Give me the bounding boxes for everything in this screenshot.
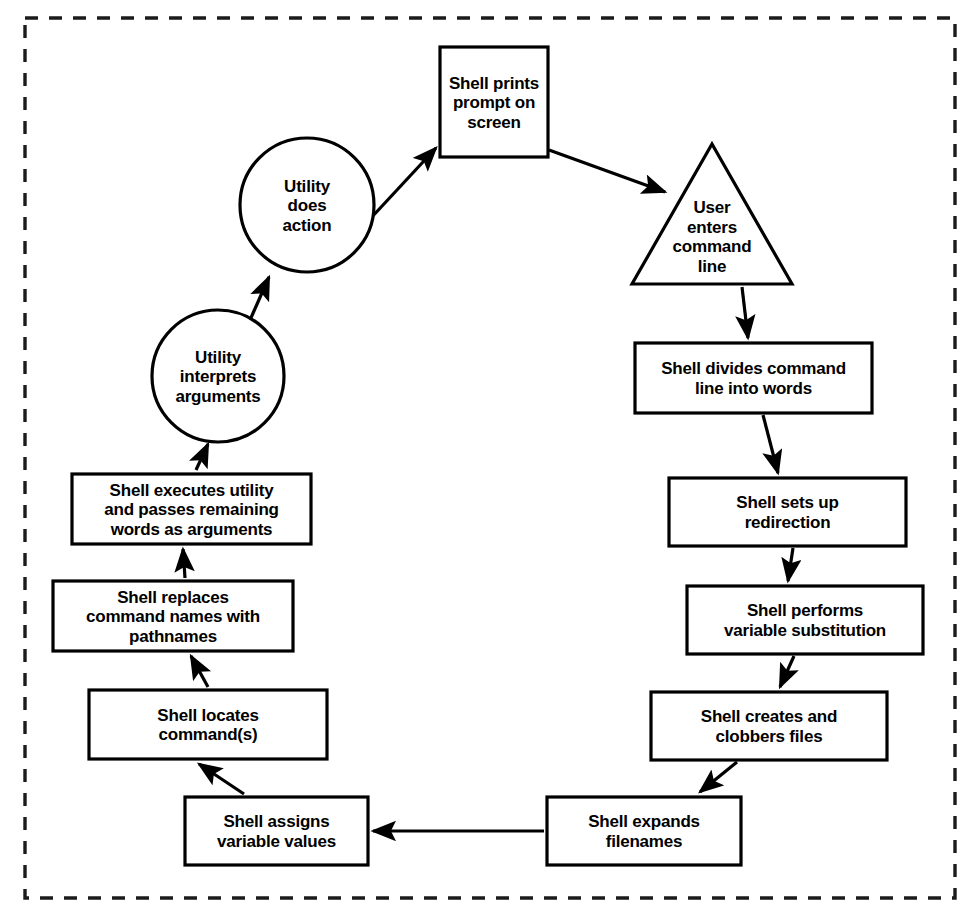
node-shell-locates-commands: Shell locatescommand(s) [89, 690, 327, 759]
edge-interprets-to-action [250, 277, 269, 320]
edge-prompt-to-user [549, 150, 665, 192]
edge-redirection-to-substitution [788, 548, 793, 581]
shell-performs-variable-substitution-label: Shell performsvariable substitution [724, 601, 886, 640]
edge-clobbers-to-expands [700, 762, 737, 792]
node-shell-replaces-command-names: Shell replacescommand names withpathname… [53, 581, 293, 651]
node-shell-sets-up-redirection: Shell sets upredirection [669, 478, 906, 546]
utility-does-action-label: Utilitydoesaction [283, 177, 332, 235]
edge-locates-to-replaces [191, 656, 208, 687]
node-shell-executes-utility: Shell executes utilityand passes remaini… [72, 474, 311, 544]
shell-creates-clobbers-files-label: Shell creates andclobbers files [701, 707, 837, 746]
shell-sets-up-redirection-label: Shell sets upredirection [736, 493, 838, 532]
node-shell-creates-clobbers-files: Shell creates andclobbers files [651, 692, 887, 760]
node-shell-prints-prompt: Shell printsprompt onscreen [440, 47, 548, 157]
node-shell-assigns-variable-values: Shell assignsvariable values [185, 797, 368, 865]
diagram-canvas: Shell printsprompt onscreenUserenterscom… [0, 0, 973, 922]
node-shell-expands-filenames: Shell expandsfilenames [547, 797, 741, 865]
node-utility-does-action: Utilitydoesaction [240, 138, 374, 272]
shell-assigns-variable-values-label: Shell assignsvariable values [217, 812, 336, 851]
shell-executes-utility-label: Shell executes utilityand passes remaini… [104, 481, 279, 539]
edge-divides-to-redirection [763, 415, 778, 473]
edge-substitution-to-clobbers [780, 656, 794, 687]
edge-replaces-to-executes [183, 549, 185, 578]
shell-locates-commands-label: Shell locatescommand(s) [157, 706, 258, 745]
edge-assigns-to-locates [199, 764, 244, 794]
node-shell-performs-variable-substitution: Shell performsvariable substitution [687, 586, 923, 654]
edge-executes-to-interprets [196, 444, 208, 470]
nodes-layer: Shell printsprompt onscreenUserenterscom… [53, 47, 923, 865]
flowchart-svg: Shell printsprompt onscreenUserenterscom… [0, 0, 973, 922]
node-user-enters-command-line: Userenterscommandline [632, 144, 792, 284]
node-utility-interprets-arguments: Utilityinterpretsarguments [152, 310, 284, 442]
node-shell-divides-command-line: Shell divides commandline into words [635, 343, 872, 413]
edge-user-to-divides [742, 287, 748, 338]
